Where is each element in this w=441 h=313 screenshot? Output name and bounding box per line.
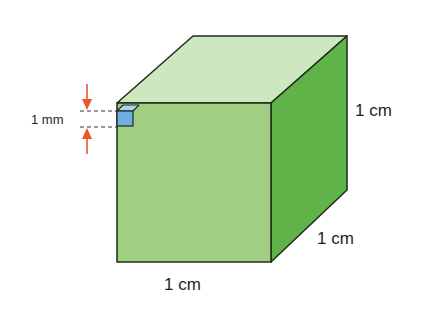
height-label: 1 cm bbox=[355, 101, 392, 120]
small-cube-label: 1 mm bbox=[31, 112, 64, 127]
small-cube-front bbox=[117, 111, 133, 126]
cube-diagram: 1 mm 1 cm 1 cm 1 cm bbox=[0, 0, 441, 313]
arrow-up-icon bbox=[82, 128, 92, 154]
width-label: 1 cm bbox=[164, 275, 201, 294]
arrow-down-icon bbox=[82, 84, 92, 110]
cube-drawing: 1 mm 1 cm 1 cm 1 cm bbox=[0, 0, 441, 313]
cube-front-face bbox=[117, 103, 271, 262]
depth-label: 1 cm bbox=[317, 229, 354, 248]
